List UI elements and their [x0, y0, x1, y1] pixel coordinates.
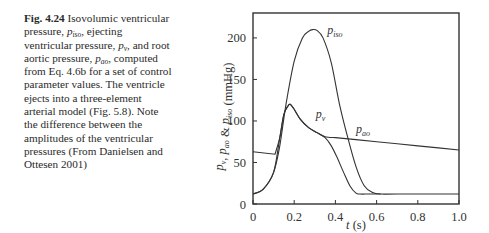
x-axis-label: t (s)	[346, 218, 366, 232]
x-tick-label: 0.4	[328, 210, 344, 224]
x-tick-label: 0.6	[369, 210, 385, 224]
y-axis-label: pv, pao & piso (mmHg)	[212, 62, 235, 171]
x-tick-label: 1.0	[451, 210, 467, 224]
y-tick-label: 0	[240, 198, 246, 212]
curve-label-p-ao: pao	[355, 122, 370, 138]
curve-label-p-iso: piso	[326, 23, 342, 39]
x-tick-label: 0.2	[286, 210, 302, 224]
curve-p-iso	[253, 29, 459, 194]
y-tick-label: 200	[227, 31, 246, 45]
x-tick-label: 0	[250, 210, 256, 224]
y-tick-label: 50	[234, 156, 247, 170]
curve-label-p-v: pv	[315, 107, 326, 123]
x-tick-label: 0.8	[410, 210, 426, 224]
pressure-chart: 00.20.40.60.81.0050100150200t (s)pv, pao…	[0, 0, 489, 233]
plot-frame	[253, 13, 459, 204]
